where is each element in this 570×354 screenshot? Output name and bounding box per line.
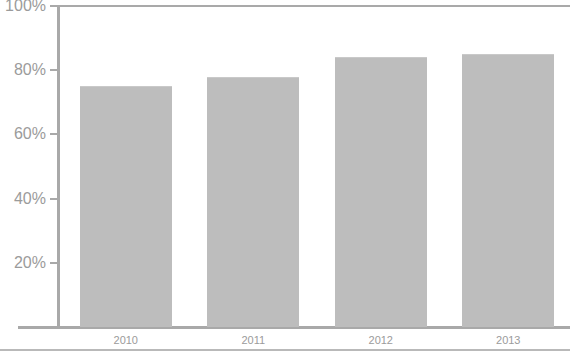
y-axis-tick — [50, 133, 58, 135]
y-axis-tick — [50, 69, 58, 71]
bar — [207, 77, 299, 327]
plot-area — [60, 5, 570, 327]
bottom-rule — [0, 349, 570, 351]
bar — [80, 86, 172, 327]
y-axis-tick-label: 100% — [5, 0, 46, 15]
x-axis-tick-label: 2012 — [369, 334, 393, 346]
bar — [462, 54, 554, 327]
y-axis-tick — [50, 198, 58, 200]
y-axis-tick-label: 20% — [14, 254, 46, 272]
x-axis-tick-label: 2011 — [241, 334, 265, 346]
y-axis-tick-label: 40% — [14, 190, 46, 208]
y-axis-tick — [50, 262, 58, 264]
bar-chart: 100%80%60%40%20% 2010201120122013 — [0, 0, 570, 354]
y-axis-tick-label: 80% — [14, 61, 46, 79]
bar — [335, 57, 427, 327]
y-axis-tick — [50, 5, 58, 7]
x-axis-tick-label: 2010 — [114, 334, 138, 346]
clipped-chart-title — [0, 0, 570, 3]
x-axis-tick-label: 2013 — [496, 334, 520, 346]
y-axis-tick-label: 60% — [14, 125, 46, 143]
